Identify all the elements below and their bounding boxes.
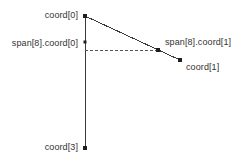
label-coord1: coord[1] bbox=[186, 62, 246, 73]
point-coord1 bbox=[178, 58, 182, 62]
label-span-coord0: span[8].coord[0] bbox=[0, 38, 78, 49]
point-coord0 bbox=[83, 14, 87, 18]
point-span-coord1 bbox=[156, 48, 160, 52]
point-span-coord0 bbox=[84, 41, 87, 44]
label-span-coord1: span[8].coord[1] bbox=[165, 37, 248, 48]
label-coord0: coord[0] bbox=[0, 10, 78, 21]
diagram-canvas: coord[0] span[8].coord[0] span[8].coord[… bbox=[0, 0, 248, 167]
label-coord3: coord[3] bbox=[0, 142, 78, 153]
point-coord3 bbox=[83, 146, 87, 150]
